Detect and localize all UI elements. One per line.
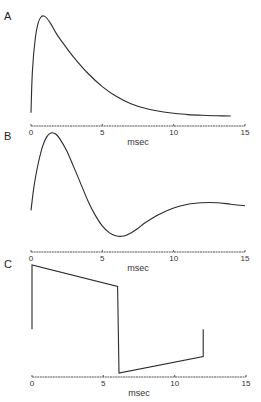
x-tick-label: 15 (241, 128, 250, 137)
x-tick-label: 5 (100, 254, 105, 263)
trace-c (32, 265, 203, 373)
x-tick-label: 0 (30, 379, 35, 388)
x-tick-label: 5 (101, 379, 106, 388)
x-tick-label: 10 (169, 128, 178, 137)
x-axis-label: msec (127, 263, 149, 273)
panel-label: C (4, 258, 12, 270)
x-tick-label: 15 (241, 254, 250, 263)
x-axis-label: msec (128, 388, 150, 398)
panel-b: B051015msec (4, 130, 250, 273)
x-tick-label: 5 (100, 128, 105, 137)
x-tick-label: 0 (29, 128, 34, 137)
panel-a: A051015msec (4, 10, 250, 147)
panel-label: B (4, 130, 11, 142)
figure: A051015msecB051015msecC051015msec (0, 0, 261, 402)
panel-c: C051015msec (4, 258, 251, 398)
x-tick-label: 10 (170, 379, 179, 388)
x-axis-label: msec (127, 137, 149, 147)
trace-a (31, 16, 231, 116)
x-tick-label: 10 (169, 254, 178, 263)
trace-b (31, 133, 245, 237)
x-tick-label: 0 (29, 254, 34, 263)
panel-label: A (4, 10, 12, 22)
x-tick-label: 15 (242, 379, 251, 388)
